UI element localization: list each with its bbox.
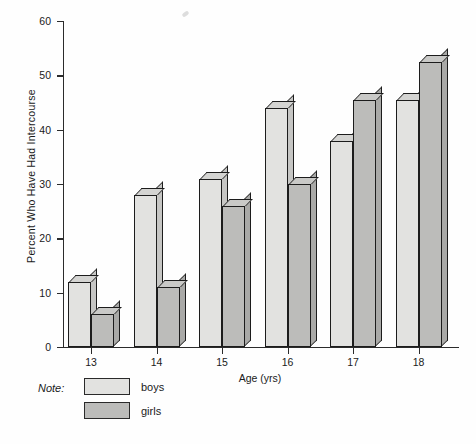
y-tick-10 bbox=[57, 293, 64, 294]
bar-side-girls-15 bbox=[244, 192, 251, 347]
x-tick-14 bbox=[157, 348, 158, 354]
x-tick-15 bbox=[222, 348, 223, 354]
bar-side-girls-18 bbox=[441, 48, 448, 347]
x-tick-17 bbox=[353, 348, 354, 354]
y-tick-20 bbox=[57, 238, 64, 239]
bar-side-girls-17 bbox=[375, 86, 382, 347]
x-tick-label-17: 17 bbox=[336, 357, 370, 368]
bar-boys-age-14 bbox=[134, 195, 157, 347]
y-tick-40 bbox=[57, 130, 64, 131]
x-tick-13 bbox=[91, 348, 92, 354]
scan-artifact bbox=[181, 10, 189, 17]
bar-boys-age-16 bbox=[265, 108, 288, 347]
bar-boys-age-17 bbox=[330, 141, 353, 347]
bar-boys-age-18 bbox=[396, 100, 419, 347]
bar-boys-age-15 bbox=[199, 179, 222, 347]
x-tick-18 bbox=[419, 348, 420, 354]
bar-boys-age-13 bbox=[68, 282, 91, 347]
x-tick-label-16: 16 bbox=[271, 357, 305, 368]
x-tick-label-18: 18 bbox=[402, 357, 436, 368]
legend-swatch-boys bbox=[84, 378, 130, 395]
bar-chart: 0102030405060 131415161718 Percent Who H… bbox=[0, 0, 476, 444]
y-tick-label-0: 0 bbox=[25, 342, 51, 353]
y-tick-30 bbox=[57, 184, 64, 185]
legend-note-label: Note: bbox=[38, 382, 64, 394]
y-tick-label-60: 60 bbox=[25, 16, 51, 27]
bar-girls-age-18 bbox=[419, 62, 442, 347]
legend-label-girls: girls bbox=[141, 405, 161, 417]
x-axis-line bbox=[63, 347, 459, 348]
y-tick-60 bbox=[57, 21, 64, 22]
legend-swatch-girls bbox=[84, 402, 130, 419]
y-axis-title: Percent Who Have Had Intercourse bbox=[25, 61, 37, 291]
x-tick-label-14: 14 bbox=[140, 357, 174, 368]
bar-girls-age-15 bbox=[222, 206, 245, 347]
bar-girls-age-16 bbox=[288, 184, 311, 347]
bar-girls-age-17 bbox=[353, 100, 376, 347]
y-tick-50 bbox=[57, 75, 64, 76]
bar-girls-age-13 bbox=[91, 314, 114, 347]
y-tick-0 bbox=[57, 347, 64, 348]
legend-label-boys: boys bbox=[141, 381, 164, 393]
x-tick-label-13: 13 bbox=[74, 357, 108, 368]
bar-side-girls-16 bbox=[310, 170, 317, 347]
x-tick-16 bbox=[288, 348, 289, 354]
x-axis-title: Age (yrs) bbox=[180, 372, 340, 384]
bar-girls-age-14 bbox=[157, 287, 180, 347]
x-tick-label-15: 15 bbox=[205, 357, 239, 368]
